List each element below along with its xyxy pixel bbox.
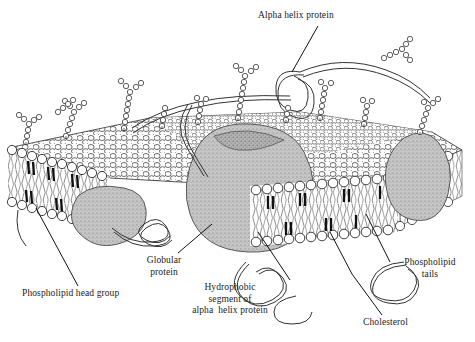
glycoprotein-chain <box>317 79 333 120</box>
glycoprotein-chain <box>233 63 258 120</box>
label-globular-protein: Globular protein <box>131 255 197 278</box>
label-alpha-helix-protein: Alpha helix protein <box>258 10 334 22</box>
label-phospholipid-tails: Phospholipid tails <box>392 257 468 280</box>
glycoprotein-chain <box>381 36 412 62</box>
glycoprotein-chain <box>16 112 41 144</box>
label-hydrophobic-segment: Hydrophobic segment of alpha helix prote… <box>175 282 285 317</box>
label-phospholipid-head-group: Phospholipid head group <box>22 288 119 300</box>
leader-alpha-helix <box>292 26 318 72</box>
leader-cholesterol <box>352 274 382 315</box>
membrane-diagram-figure: Alpha helix protein Phospholipid head gr… <box>0 0 475 342</box>
globular-protein-left <box>71 186 146 245</box>
label-cholesterol: Cholesterol <box>363 317 408 329</box>
